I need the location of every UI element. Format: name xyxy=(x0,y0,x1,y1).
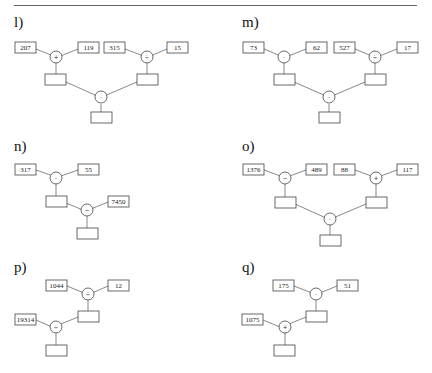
input-value: 7450 xyxy=(112,198,127,206)
answer-box xyxy=(46,345,67,356)
connector-line xyxy=(66,82,97,96)
operator-symbol: · xyxy=(283,54,285,61)
diagram-q: 175 51 1075 · + xyxy=(242,280,358,356)
answer-box xyxy=(366,197,387,208)
operator-symbol: ÷ xyxy=(86,291,90,298)
operator-symbol: · xyxy=(328,94,330,101)
connector-line xyxy=(104,82,137,96)
input-value: 207 xyxy=(20,44,31,52)
diagram-o: 1376 489 88 117 − + · xyxy=(243,164,418,246)
input-value: 62 xyxy=(313,44,321,52)
input-value: 489 xyxy=(311,166,322,174)
input-value: 119 xyxy=(83,44,94,52)
connector-line xyxy=(294,286,312,293)
input-value: 317 xyxy=(20,166,31,174)
input-value: 1044 xyxy=(50,282,65,290)
answer-box xyxy=(78,311,99,322)
input-value: 19314 xyxy=(17,316,35,324)
operator-symbol: · xyxy=(100,94,102,101)
operator-symbol: ÷ xyxy=(54,324,58,331)
operator-symbol: ÷ xyxy=(373,54,377,61)
operator-symbol: − xyxy=(85,207,89,214)
input-value: 175 xyxy=(278,282,289,290)
answer-box xyxy=(77,228,98,239)
input-value: 1075 xyxy=(246,316,261,324)
input-value: 1376 xyxy=(247,166,262,174)
connector-line xyxy=(333,204,366,218)
answer-box xyxy=(274,345,295,356)
answer-box xyxy=(306,311,327,322)
answer-box xyxy=(274,74,295,85)
answer-box xyxy=(45,74,66,85)
connector-line xyxy=(61,317,78,324)
connector-line xyxy=(320,286,337,293)
answer-box xyxy=(275,197,296,208)
input-value: 12 xyxy=(115,282,123,290)
input-value: 73 xyxy=(250,44,258,52)
answer-box xyxy=(91,112,112,123)
operator-symbol: + xyxy=(54,54,58,61)
answer-box xyxy=(137,74,158,85)
input-value: 117 xyxy=(402,166,413,174)
diagram-p: 1044 12 19314 ÷ ÷ xyxy=(15,280,129,356)
operator-symbol: ÷ xyxy=(145,54,149,61)
input-value: 55 xyxy=(85,166,93,174)
operator-symbol: − xyxy=(283,175,287,182)
diagram-l: 207 119 315 15 + ÷ · xyxy=(15,42,188,123)
arithmetic-diagrams: 207 119 315 15 + ÷ · 73 62 527 17 xyxy=(0,0,432,373)
input-value: 88 xyxy=(341,166,349,174)
input-value: 527 xyxy=(339,44,350,52)
operator-symbol: + xyxy=(374,175,378,182)
answer-box xyxy=(46,196,67,207)
answer-box xyxy=(319,112,340,123)
connector-line xyxy=(91,202,108,209)
connector-line xyxy=(295,204,326,218)
input-value: 315 xyxy=(109,44,120,52)
operator-symbol: · xyxy=(315,291,317,298)
connector-line xyxy=(289,317,306,324)
operator-symbol: + xyxy=(283,324,287,331)
connector-line xyxy=(92,286,108,293)
connector-line xyxy=(66,203,83,210)
input-value: 51 xyxy=(344,282,352,290)
diagram-m: 73 62 527 17 · ÷ · xyxy=(243,42,418,123)
connector-line xyxy=(67,286,84,293)
answer-box xyxy=(320,235,341,246)
input-value: 15 xyxy=(174,44,182,52)
connector-line xyxy=(332,82,365,96)
operator-symbol: · xyxy=(329,216,331,223)
operator-symbol: · xyxy=(55,175,57,182)
connector-line xyxy=(263,320,280,327)
input-value: 17 xyxy=(404,44,412,52)
answer-box xyxy=(365,74,386,85)
diagram-n: 317 55 7450 · − xyxy=(15,164,129,239)
connector-line xyxy=(294,82,326,96)
connector-line xyxy=(36,320,52,327)
